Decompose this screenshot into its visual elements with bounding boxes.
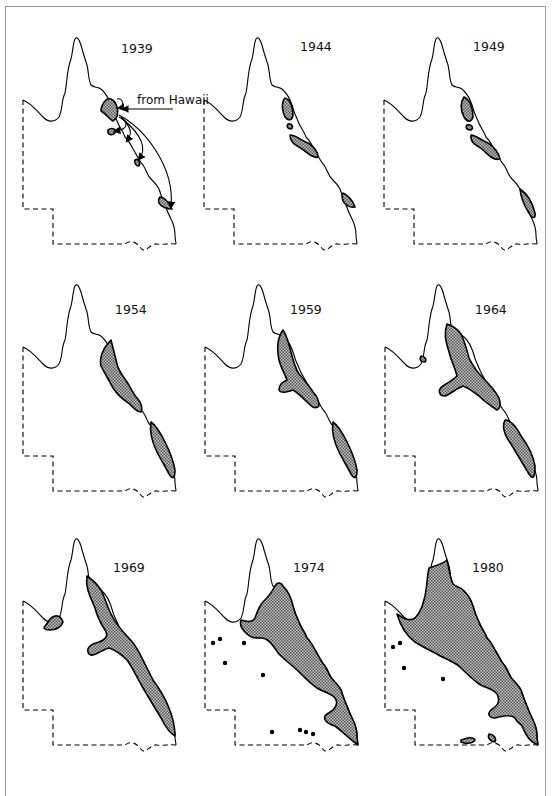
infested-area — [150, 422, 175, 477]
infested-area — [461, 97, 473, 121]
panel-year-label: 1980 — [472, 560, 504, 575]
spot-occurrence — [311, 732, 315, 736]
map-panel-1939: 1939 from Hawaii — [23, 38, 209, 250]
infested-area — [461, 738, 475, 744]
panel-year-label: 1939 — [121, 41, 153, 56]
spot-occurrence — [398, 641, 402, 645]
infested-area — [488, 734, 495, 742]
map-panel-1954: 1954 — [23, 285, 176, 497]
panel-year-label: 1954 — [115, 302, 147, 317]
panel-year-label: 1974 — [293, 560, 325, 575]
infested-area — [159, 197, 172, 209]
spread-arrow — [117, 99, 123, 108]
infested-area — [100, 340, 141, 412]
spot-occurrence — [242, 641, 246, 645]
map-panel-1959: 1959 — [205, 285, 358, 497]
panel-year-label: 1949 — [473, 39, 505, 54]
spot-occurrence — [211, 641, 215, 645]
spot-occurrence — [441, 677, 445, 681]
annotation-from-hawaii: from Hawaii — [137, 93, 209, 107]
infested-area — [101, 99, 118, 121]
map-panel-1969: 1969 — [23, 539, 176, 751]
infested-area — [44, 616, 63, 630]
spot-occurrence — [391, 645, 395, 649]
panel-year-label: 1969 — [113, 560, 145, 575]
infested-area — [520, 189, 535, 218]
panel-year-label: 1944 — [300, 39, 332, 54]
map-panel-1980: 1980 — [385, 539, 538, 751]
infested-area — [87, 576, 175, 736]
infested-area — [342, 193, 355, 207]
spot-occurrence — [298, 728, 302, 732]
spot-occurrence — [402, 666, 406, 670]
map-panel-1974: 1974 — [205, 539, 358, 751]
spot-occurrence — [261, 673, 265, 677]
infested-area — [471, 135, 500, 159]
infested-area — [290, 135, 318, 157]
panel-year-label: 1964 — [475, 302, 507, 317]
infested-area — [240, 583, 358, 745]
map-panel-1944: 1944 — [204, 38, 357, 250]
map-panel-1949: 1949 — [384, 38, 537, 250]
infested-area — [420, 356, 426, 362]
infested-area — [466, 125, 472, 130]
infested-area — [503, 420, 535, 477]
infested-area — [332, 422, 357, 477]
infested-area — [287, 124, 292, 129]
infested-area — [135, 159, 140, 166]
spread-arrow — [119, 115, 171, 207]
infested-area — [108, 129, 116, 135]
infested-area — [439, 324, 500, 410]
map-panel-1964: 1964 — [385, 285, 538, 497]
spot-occurrence — [223, 661, 227, 665]
infested-area — [278, 330, 319, 408]
spot-occurrence — [218, 637, 222, 641]
infested-area — [282, 98, 293, 120]
infested-area — [397, 560, 538, 745]
spot-occurrence — [304, 730, 308, 734]
spot-occurrence — [270, 730, 274, 734]
panel-year-label: 1959 — [290, 302, 322, 317]
